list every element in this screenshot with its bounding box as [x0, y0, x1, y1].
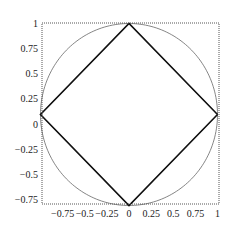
y-tick-label: 0.25 — [21, 93, 39, 104]
y-axis-ticks: 10.750.50.250−0.25−0.5−0.75 — [15, 18, 38, 206]
diamond-curve — [41, 24, 218, 206]
y-tick-label: 0 — [33, 119, 38, 130]
y-tick-label: 0.5 — [26, 68, 39, 79]
x-tick-label: −0.75 — [51, 208, 74, 219]
y-tick-label: −0.25 — [15, 144, 38, 155]
x-tick-label: 0.25 — [142, 208, 160, 219]
y-tick-label: 1 — [33, 18, 38, 29]
x-tick-label: 1 — [215, 208, 220, 219]
circle-curve — [41, 24, 218, 206]
astroid-curve — [41, 24, 218, 206]
x-tick-label: 0.75 — [187, 208, 205, 219]
plot-frame — [42, 23, 219, 204]
curves — [41, 24, 218, 206]
x-tick-label: −0.5 — [76, 208, 94, 219]
y-tick-label: −0.5 — [20, 169, 38, 180]
plot-area: −0.75−0.5−0.2500.250.50.751 10.750.50.25… — [0, 0, 231, 229]
x-tick-label: 0 — [127, 208, 132, 219]
chart: −0.75−0.5−0.2500.250.50.751 10.750.50.25… — [0, 0, 231, 229]
x-tick-label: 0.5 — [167, 208, 180, 219]
x-axis-ticks: −0.75−0.5−0.2500.250.50.751 — [51, 208, 220, 219]
y-tick-label: 0.75 — [21, 43, 39, 54]
y-tick-label: −0.75 — [15, 194, 38, 205]
x-tick-label: −0.25 — [95, 208, 118, 219]
